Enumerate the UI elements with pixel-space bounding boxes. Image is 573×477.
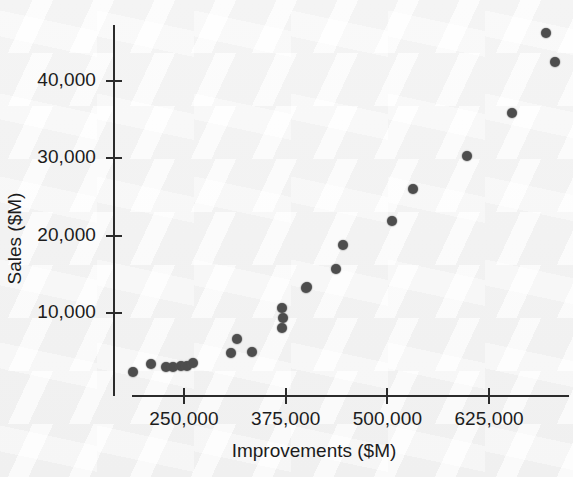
y-tick-label: 10,000 bbox=[37, 301, 96, 323]
data-point bbox=[302, 282, 312, 292]
plot-area: 10,00020,00030,00040,000 250,000375,0005… bbox=[0, 0, 573, 477]
data-point bbox=[128, 367, 138, 377]
x-axis-title: Improvements ($M) bbox=[0, 440, 573, 462]
data-point bbox=[338, 240, 348, 250]
x-tick-label: 250,000 bbox=[149, 408, 218, 430]
x-tick-label: 375,000 bbox=[251, 408, 320, 430]
y-tick-mark bbox=[106, 235, 122, 237]
data-point bbox=[462, 151, 472, 161]
data-point bbox=[226, 348, 236, 358]
data-point bbox=[408, 184, 418, 194]
y-tick-mark bbox=[106, 312, 122, 314]
y-tick-label: 30,000 bbox=[37, 146, 96, 168]
data-point bbox=[188, 358, 198, 368]
data-point bbox=[387, 216, 397, 226]
data-point bbox=[277, 323, 287, 333]
data-point bbox=[507, 108, 517, 118]
scatter-plot-figure: 10,00020,00030,00040,000 250,000375,0005… bbox=[0, 0, 573, 477]
data-point bbox=[247, 347, 257, 357]
y-tick-mark bbox=[106, 157, 122, 159]
y-axis-title: Sales ($M) bbox=[0, 0, 30, 477]
x-tick-label: 500,000 bbox=[353, 408, 422, 430]
x-axis-line bbox=[132, 395, 569, 397]
x-tick-mark bbox=[488, 388, 490, 404]
data-point bbox=[277, 303, 287, 313]
x-tick-label: 625,000 bbox=[454, 408, 523, 430]
data-point bbox=[232, 334, 242, 344]
y-tick-label: 40,000 bbox=[37, 69, 96, 91]
y-tick-label: 20,000 bbox=[37, 224, 96, 246]
x-tick-mark bbox=[183, 388, 185, 404]
x-tick-mark bbox=[285, 388, 287, 404]
y-tick-mark bbox=[106, 80, 122, 82]
data-point bbox=[278, 313, 288, 323]
data-point bbox=[541, 28, 551, 38]
data-point bbox=[550, 57, 560, 67]
data-point bbox=[146, 359, 156, 369]
x-tick-mark bbox=[386, 388, 388, 404]
data-point bbox=[331, 264, 341, 274]
